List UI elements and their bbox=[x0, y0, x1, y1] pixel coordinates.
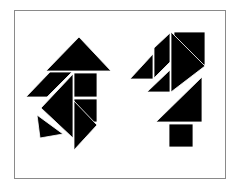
tangram-piece-square bbox=[74, 73, 97, 97]
tangram-canvas bbox=[0, 0, 241, 187]
tangram-piece-parallelogram bbox=[154, 33, 170, 78]
tangram-piece-large-triangle bbox=[46, 37, 111, 71]
left-tangram-figure bbox=[26, 37, 111, 150]
right-tangram-figure bbox=[130, 32, 205, 147]
tangram-piece-square bbox=[169, 124, 193, 147]
tangram-piece-small-triangle bbox=[130, 54, 153, 79]
